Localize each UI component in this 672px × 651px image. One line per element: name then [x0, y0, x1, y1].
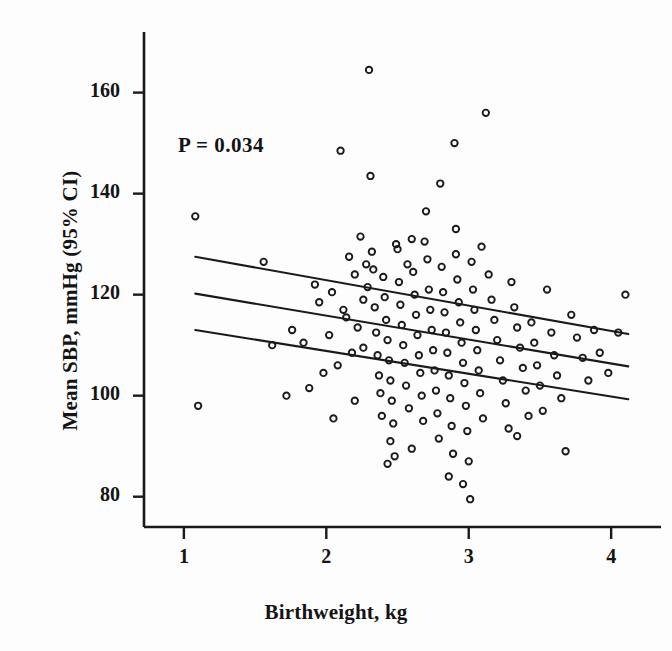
x-axis-ticks — [184, 527, 611, 539]
figure-panel: Mean SBP, mmHg (95% CI) Birthweight, kg … — [0, 0, 672, 651]
x-tick-label: 3 — [449, 545, 489, 568]
x-tick-label: 4 — [591, 545, 631, 568]
x-tick-label: 1 — [164, 545, 204, 568]
x-tick-label: 2 — [306, 545, 346, 568]
axis-spines — [144, 32, 661, 527]
x-axis-title: Birthweight, kg — [0, 600, 672, 625]
y-tick-label: 120 — [64, 281, 120, 304]
y-tick-label: 80 — [64, 483, 120, 506]
y-tick-label: 100 — [64, 382, 120, 405]
y-axis-ticks — [133, 93, 144, 497]
y-tick-label: 140 — [64, 180, 120, 203]
regression-lines-layer — [195, 257, 628, 399]
p-value-annotation: P = 0.034 — [178, 133, 264, 158]
y-tick-label: 160 — [64, 79, 120, 102]
